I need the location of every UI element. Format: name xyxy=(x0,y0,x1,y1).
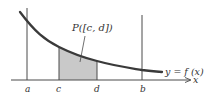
shaded-region-c-to-d xyxy=(59,47,97,80)
tick-label-d: d xyxy=(94,84,100,94)
tick-label-a: a xyxy=(25,84,30,94)
x-axis-label: x xyxy=(193,74,199,85)
tick-label-b: b xyxy=(140,84,146,94)
tick-label-c: c xyxy=(56,84,61,94)
region-label: P([c, d]) xyxy=(71,22,113,33)
probability-integral-diagram: P([c, d]) y = f (x) x a c d b xyxy=(0,0,213,101)
